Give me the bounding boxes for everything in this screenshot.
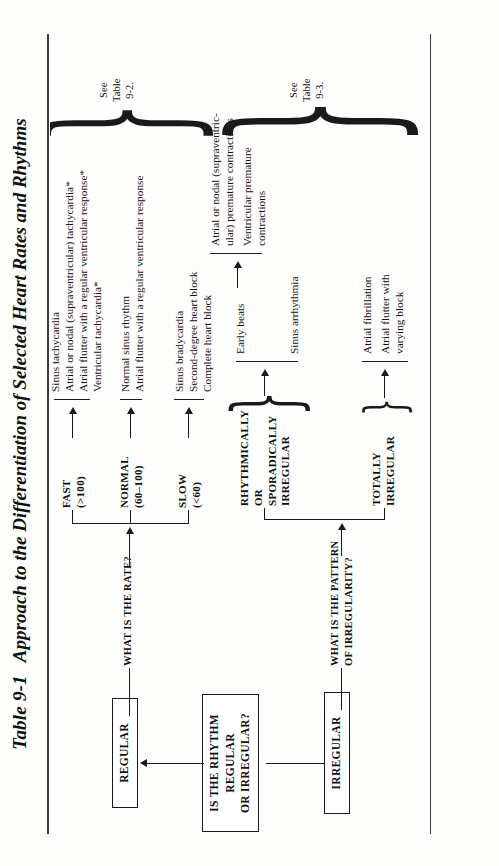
- rate-group-fast-label: FAST (>100): [60, 476, 88, 508]
- regular-question-connector: [129, 668, 130, 716]
- see-line-3: 9-2.: [124, 79, 137, 102]
- table-rule-bottom: [430, 34, 431, 834]
- slow-label-line-1: SLOW: [176, 474, 190, 508]
- slow-arrow-icon: [185, 407, 193, 414]
- irregular-question-line-1: WHAT IS THE PATTERN: [328, 541, 342, 666]
- rhythmic-label-line-2: OR: [252, 410, 266, 506]
- branch-irregular-box[interactable]: IRREGULAR: [324, 692, 350, 814]
- rhythmically-brace-icon: }: [222, 391, 309, 416]
- rhythmically-bracket: [236, 361, 298, 362]
- early-beats-connector: [237, 266, 238, 288]
- rhythmic-label-line-1: RHYTHMICALLY: [238, 410, 252, 506]
- see-line-3: 9-3.: [314, 79, 327, 102]
- flowchart-region: IS THE RHYTHM REGULAR OR IRREGULAR? REGU…: [50, 22, 430, 844]
- totally-tick: [384, 508, 385, 520]
- flowchart: IS THE RHYTHM REGULAR OR IRREGULAR? REGU…: [50, 22, 430, 844]
- table-page: Table 9-1 Approach to the Differentiatio…: [0, 0, 499, 866]
- fast-arrow-icon: [69, 407, 77, 414]
- list-item: Ventricular premature contractions: [240, 46, 268, 246]
- branch-regular-box[interactable]: REGULAR: [112, 698, 138, 808]
- regular-question-label: WHAT IS THE RATE?: [122, 556, 133, 666]
- see-line-2: Table: [111, 79, 124, 102]
- slow-connector: [188, 412, 189, 438]
- normal-label-line-2: (60–100): [132, 456, 146, 508]
- fast-connector: [72, 412, 73, 438]
- early-beats-bracket: [210, 253, 262, 254]
- rhythmically-tick: [264, 508, 265, 520]
- sub-early-beats: Early beats: [230, 304, 248, 355]
- rate-group-slow-label: SLOW (<60): [176, 474, 204, 508]
- fast-label-line-1: FAST: [60, 476, 74, 508]
- sub-early-beats-label: Early beats: [234, 304, 246, 355]
- normal-tick: [130, 510, 131, 524]
- regular-see-reference: See Table 9-2.: [98, 79, 137, 102]
- page-title: Approach to the Differentiation of Selec…: [9, 118, 31, 662]
- pattern-group-totally-label: TOTALLY IRREGULAR: [370, 436, 398, 506]
- irregular-question-line-2: OF IRREGULARITY?: [342, 541, 356, 666]
- root-question-box[interactable]: IS THE RHYTHM REGULAR OR IRREGULAR?: [202, 694, 259, 832]
- regular-question-arrow-icon: [126, 527, 134, 534]
- totally-item-list: Atrial fibrillation Atrial flutter with …: [360, 194, 406, 354]
- pattern-group-rhythmically-label: RHYTHMICALLY OR SPORADICALLY IRREGULAR: [238, 410, 293, 506]
- slow-tick: [188, 510, 189, 524]
- list-item: Atrial flutter with varying block: [378, 194, 406, 354]
- totally-arrow-icon: [381, 369, 389, 376]
- fast-item-list: Sinus tachycardia Atrial or nodal (supra…: [50, 170, 104, 392]
- root-stem-up: [146, 763, 204, 764]
- slow-bracket: [174, 399, 204, 400]
- list-item: Complete heart block: [200, 272, 214, 392]
- slow-item-list: Sinus bradycardia Second-degree heart bl…: [172, 272, 214, 392]
- rate-group-normal-label: NORMAL (60–100): [118, 456, 146, 508]
- root-stem-down: [266, 763, 324, 764]
- list-item: Ventricular tachycardia*: [90, 170, 104, 392]
- rhythmically-connector: [264, 374, 265, 396]
- early-beats-arrow-icon: [234, 261, 242, 268]
- normal-item-list: Normal sinus rhythm Atrial flutter with …: [118, 176, 146, 392]
- branch-irregular-label: IRREGULAR: [330, 717, 342, 790]
- list-item: Second-degree heart block: [186, 272, 200, 392]
- totally-bracket: [362, 361, 408, 362]
- early-beats-item-list: Atrial or nodal (supraventric- ular) pre…: [208, 46, 268, 246]
- see-line-1: See: [98, 79, 111, 102]
- totally-label-line-1: TOTALLY: [370, 436, 384, 506]
- irregular-see-reference: See Table 9-3.: [288, 79, 327, 102]
- list-item: Atrial or nodal (supraventric- ular) pre…: [208, 46, 236, 246]
- root-question-line-3: OR IRREGULAR?: [238, 703, 254, 823]
- totally-label-line-2: IRREGULAR: [384, 436, 398, 506]
- list-item: Atrial flutter with a regular ventricula…: [132, 176, 146, 392]
- totally-brace-icon: }: [358, 398, 411, 416]
- list-item: Sinus tachycardia: [50, 170, 62, 392]
- table-number: Table 9-1: [9, 675, 31, 749]
- totally-connector: [384, 374, 385, 398]
- root-arrow-up-icon: [140, 760, 147, 768]
- sub-sinus-arrhythmia: Sinus arrhythmia: [284, 276, 302, 354]
- fast-label-line-2: (>100): [74, 476, 88, 508]
- irregular-question-connector-2: [341, 528, 342, 556]
- root-question-line-1: IS THE RHYTHM: [207, 703, 223, 823]
- normal-arrow-icon: [127, 407, 135, 414]
- branch-regular-label: REGULAR: [118, 723, 130, 783]
- list-item: Atrial fibrillation: [360, 194, 374, 354]
- irregular-group-brace-icon: }: [204, 98, 415, 144]
- rhythmically-arrow-icon: [261, 369, 269, 376]
- sub-sinus-arrhythmia-label: Sinus arrhythmia: [288, 276, 300, 354]
- list-item: Normal sinus rhythm: [118, 176, 132, 392]
- root-question-line-2: REGULAR: [223, 703, 239, 823]
- list-item: Atrial or nodal (supraventricular) tachy…: [62, 170, 76, 392]
- regular-question-connector-2: [129, 532, 130, 568]
- list-item: Atrial flutter with a regular ventricula…: [76, 170, 90, 392]
- normal-connector: [130, 412, 131, 438]
- irregular-question-connector: [341, 668, 342, 710]
- see-line-1: See: [288, 79, 301, 102]
- rhythmic-label-line-3: SPORADICALLY: [266, 410, 280, 506]
- fast-bracket: [54, 399, 90, 400]
- normal-bracket: [120, 399, 142, 400]
- see-line-2: Table: [301, 79, 314, 102]
- table-caption: Table 9-1 Approach to the Differentiatio…: [0, 0, 40, 866]
- slow-label-line-2: (<60): [190, 474, 204, 508]
- irregular-question-label: WHAT IS THE PATTERN OF IRREGULARITY?: [328, 541, 355, 666]
- irregular-question-arrow-icon: [338, 523, 346, 530]
- list-item: Sinus bradycardia: [172, 272, 186, 392]
- normal-label-line-1: NORMAL: [118, 456, 132, 508]
- rhythmic-label-line-4: IRREGULAR: [279, 410, 293, 506]
